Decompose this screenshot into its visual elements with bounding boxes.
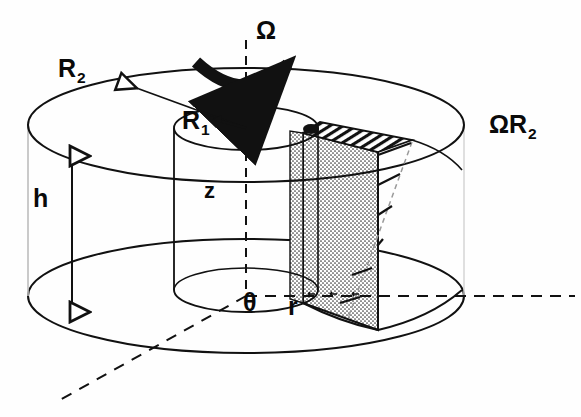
outer-cut-top-arc: [412, 140, 462, 170]
label-rim-speed: ΩR2: [489, 112, 537, 142]
label-outer-radius: R2: [58, 56, 86, 86]
wedge-corner-node: [303, 124, 319, 134]
rotating-annulus-figure: R2 R1 Ω h z θ r ΩR2: [0, 0, 581, 417]
rotation-arrow: [196, 62, 288, 86]
label-inner-radius: R1: [182, 108, 210, 138]
label-height: h: [33, 186, 48, 211]
label-radial-coordinate: r: [288, 294, 298, 319]
wedge-inner-sliver: [290, 131, 303, 303]
label-omega: Ω: [256, 18, 276, 43]
axis-oblique-dashed: [60, 296, 246, 400]
diagram-canvas: [0, 0, 581, 417]
wedge-radial-face: [303, 133, 378, 330]
label-azimuthal-coordinate: θ: [243, 290, 257, 315]
label-axial-coordinate: z: [204, 180, 215, 202]
